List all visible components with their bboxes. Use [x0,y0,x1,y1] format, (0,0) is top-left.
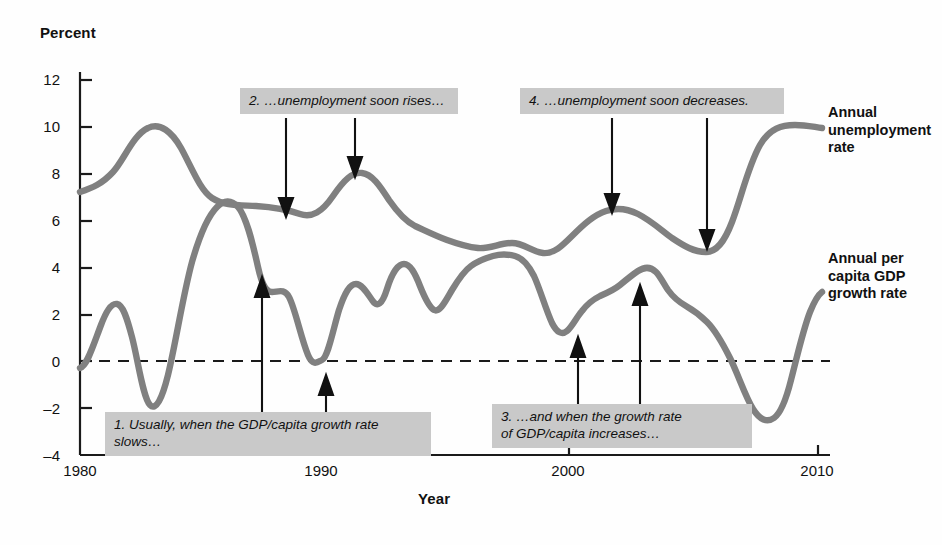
callout-2-arrows [279,118,362,217]
callout-1-arrows [255,277,333,412]
chart-figure: Percent Year 12 10 8 6 4 2 0 –2 –4 1980 … [0,0,942,545]
series-label-gdp-growth: Annual per capita GDP growth rate [828,250,907,303]
callout-3: 3. …and when the growth rate of GDP/capi… [492,404,752,448]
callout-1: 1. Usually, when the GDP/capita growth r… [105,412,431,456]
callout-4: 4. …unemployment soon decreases. [520,88,784,114]
callout-3-arrows [571,285,647,404]
series-label-unemployment: Annual unemployment rate [828,104,931,157]
callout-2: 2. …unemployment soon rises… [240,88,458,114]
chart-canvas [0,0,942,545]
